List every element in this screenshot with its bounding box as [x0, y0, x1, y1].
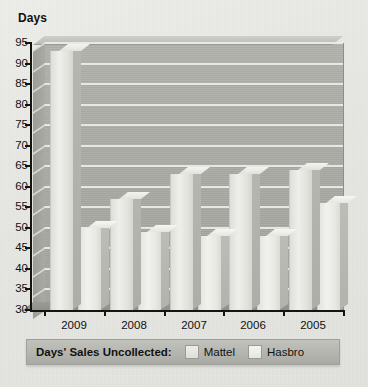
legend-entry-mattel[interactable]: Mattel [185, 345, 235, 359]
bar-side-face [72, 45, 81, 310]
hasbro-swatch-icon [248, 345, 262, 359]
legend-label-hasbro: Hasbro [267, 346, 304, 358]
bar-side-face [251, 168, 260, 310]
x-axis-label-2009: 2009 [50, 319, 98, 331]
bar-front-face [110, 199, 133, 310]
bar-front-face [229, 174, 252, 310]
bar-side-face [100, 222, 109, 310]
bar-hasbro-2006[interactable] [257, 236, 279, 310]
x-axis-label-2007: 2007 [170, 319, 218, 331]
y-axis-tick-label: 95 [6, 36, 28, 48]
y-axis-tick-label: 45 [6, 241, 28, 253]
legend-entry-hasbro[interactable]: Hasbro [248, 345, 304, 359]
chart-legend: Days' Sales Uncollected: Mattel Hasbro [26, 339, 340, 365]
bar-front-face [257, 236, 280, 310]
bar-front-face [289, 170, 312, 310]
chart-page: Days 9590858075706560555045403530 200520… [0, 0, 368, 387]
bar-side-face [311, 164, 320, 310]
x-axis-label-2006: 2006 [229, 319, 277, 331]
x-axis-label-2008: 2008 [110, 319, 158, 331]
mattel-swatch-icon [185, 345, 199, 359]
bar-side-face [339, 197, 348, 310]
y-axis-title: Days [18, 11, 47, 25]
y-axis-tick-label: 35 [6, 282, 28, 294]
bar-hasbro-2009[interactable] [78, 228, 100, 310]
y-axis-tick-label: 90 [6, 57, 28, 69]
bar-mattel-2007[interactable] [170, 174, 192, 310]
bar-mattel-2009[interactable] [50, 51, 72, 310]
y-axis-tick-label: 60 [6, 180, 28, 192]
y-axis-tick-label: 80 [6, 98, 28, 110]
y-axis-tick-label: 85 [6, 77, 28, 89]
x-axis-tick [283, 310, 285, 316]
bar-side-face [192, 168, 201, 310]
y-axis-tick-label: 65 [6, 159, 28, 171]
x-axis-line [30, 310, 343, 312]
legend-label-mattel: Mattel [204, 346, 235, 358]
bar-hasbro-2008[interactable] [138, 232, 160, 310]
bar-mattel-2005[interactable] [289, 170, 311, 310]
bar-side-face [279, 230, 288, 310]
gridline [44, 145, 343, 147]
gridline [44, 83, 343, 85]
bar-front-face [138, 232, 161, 310]
x-axis-tick [343, 310, 345, 316]
bar-front-face [198, 236, 221, 310]
y-axis-tick-label: 50 [6, 221, 28, 233]
x-axis-tick [44, 310, 46, 316]
bar-mattel-2006[interactable] [229, 174, 251, 310]
bar-side-face [220, 230, 229, 310]
bar-hasbro-2005[interactable] [317, 203, 339, 310]
plot-area: 9590858075706560555045403530 20052006200… [0, 36, 368, 311]
gridline [44, 63, 343, 65]
y-axis-tick-label: 30 [6, 303, 28, 315]
bar-front-face [317, 203, 340, 310]
bar-side-face [160, 226, 169, 310]
x-axis-label-2005: 2005 [289, 319, 337, 331]
y-axis-tick-label: 55 [6, 200, 28, 212]
y-axis-tick-label: 40 [6, 262, 28, 274]
y-axis-tick-label: 70 [6, 139, 28, 151]
bar-front-face [170, 174, 193, 310]
x-axis-tick [223, 310, 225, 316]
x-axis-tick [104, 310, 106, 316]
gridline [44, 124, 343, 126]
bar-front-face [78, 228, 101, 310]
bar-side-face [132, 193, 141, 310]
x-axis-tick [164, 310, 166, 316]
gridline [44, 104, 343, 106]
y-axis-tick-label: 75 [6, 118, 28, 130]
legend-title: Days' Sales Uncollected: [36, 346, 172, 358]
bar-mattel-2008[interactable] [110, 199, 132, 310]
bar-front-face [50, 51, 73, 310]
